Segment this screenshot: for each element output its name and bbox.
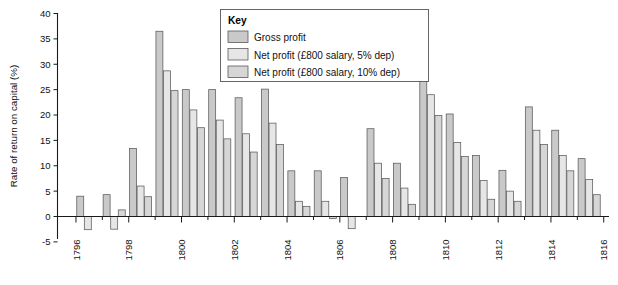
bar — [367, 129, 374, 217]
bar — [295, 201, 302, 216]
y-axis-label-group: Rate of return on capital (%) — [8, 65, 19, 188]
y-tick-label: 30 — [40, 59, 51, 70]
x-tick-label: 1800 — [176, 239, 187, 260]
legend-label: Gross profit — [254, 32, 306, 43]
x-tick-label: 1808 — [387, 239, 398, 260]
bar — [269, 123, 276, 216]
y-tick-label: 0 — [45, 211, 50, 222]
bar — [473, 156, 480, 217]
bar — [461, 157, 468, 217]
bar — [118, 210, 125, 217]
bar — [480, 180, 487, 216]
y-tick-label: 5 — [45, 186, 50, 197]
bar — [182, 90, 189, 217]
legend-swatch — [228, 31, 248, 43]
bar — [303, 206, 310, 216]
bar — [578, 159, 585, 217]
bar — [84, 217, 91, 230]
x-tick-label: 1816 — [598, 239, 609, 260]
bar — [499, 170, 506, 216]
bar — [427, 95, 434, 217]
x-tick-label: 1796 — [71, 239, 82, 260]
bar — [341, 177, 348, 216]
y-tick-label: 35 — [40, 33, 51, 44]
bar — [250, 152, 257, 216]
bar — [163, 71, 170, 217]
legend-heading: Key — [228, 15, 247, 26]
bar-chart: -50510152025303540 179617981800180218041… — [0, 0, 618, 285]
bar — [454, 142, 461, 216]
y-tick-label: 10 — [40, 160, 51, 171]
x-tick-label: 1810 — [440, 239, 451, 260]
bar — [243, 134, 250, 217]
x-tick-label: 1812 — [493, 239, 504, 260]
y-tick-label: 15 — [40, 135, 51, 146]
bar — [137, 186, 144, 216]
bar — [111, 217, 118, 230]
bar — [420, 64, 427, 216]
legend-label: Net profit (£800 salary, 10% dep) — [254, 67, 400, 78]
bar — [314, 171, 321, 217]
x-tick-label: 1802 — [229, 239, 240, 260]
bar — [507, 191, 514, 216]
bar — [103, 195, 110, 217]
bar — [393, 163, 400, 216]
x-tick-label: 1798 — [123, 239, 134, 260]
legend-swatch — [228, 66, 248, 78]
bar — [567, 171, 574, 217]
bar — [552, 130, 559, 216]
bar — [235, 98, 242, 217]
bar — [409, 204, 416, 216]
bar — [586, 179, 593, 216]
x-tick-label: 1814 — [546, 239, 557, 260]
bar — [261, 89, 268, 216]
bar — [77, 196, 84, 216]
bar — [446, 114, 453, 217]
y-tick-label: 25 — [40, 84, 51, 95]
x-tick-label: 1804 — [282, 239, 293, 260]
bar — [559, 156, 566, 217]
y-tick-label: 40 — [40, 8, 51, 19]
bar — [190, 110, 197, 217]
bar — [216, 120, 223, 216]
bar — [435, 116, 442, 217]
y-tick-label: 20 — [40, 109, 51, 120]
bar — [224, 139, 231, 217]
bar — [514, 201, 521, 216]
bar — [540, 144, 547, 216]
bar — [209, 90, 216, 217]
bar — [145, 197, 152, 217]
bar — [171, 91, 178, 217]
bar — [322, 201, 329, 216]
bar — [533, 130, 540, 216]
bar — [156, 31, 163, 216]
bar — [401, 188, 408, 216]
chart-container: -50510152025303540 179617981800180218041… — [0, 0, 618, 285]
y-tick-label: -5 — [42, 236, 50, 247]
bar — [593, 195, 600, 217]
bar — [488, 199, 495, 216]
legend-label: Net profit (£800 salary, 5% dep) — [254, 50, 394, 61]
bar — [197, 128, 204, 217]
bar — [288, 171, 295, 217]
x-tick-label: 1806 — [334, 239, 345, 260]
bar — [525, 107, 532, 217]
bar — [277, 144, 284, 216]
chart-legend: Key Gross profitNet profit (£800 salary,… — [221, 10, 429, 82]
legend-swatch — [228, 49, 248, 61]
bar — [375, 163, 382, 216]
y-axis-label: Rate of return on capital (%) — [8, 65, 19, 188]
bar — [382, 178, 389, 216]
bar — [130, 149, 137, 217]
bar — [348, 217, 355, 229]
